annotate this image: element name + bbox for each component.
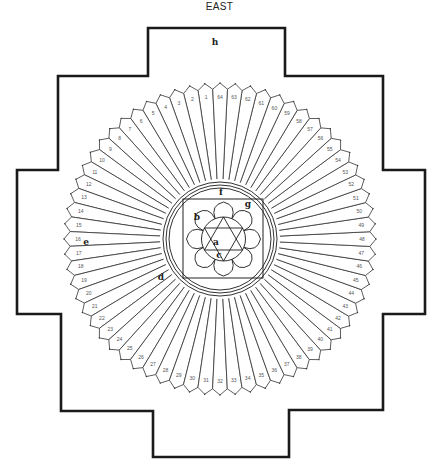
petal-number: 26 [138, 354, 144, 360]
petal-number: 19 [81, 277, 87, 283]
petal-number: 18 [78, 263, 84, 269]
petal-number: 33 [231, 377, 237, 383]
petal-tip-dot [160, 94, 161, 95]
petal-number: 16 [75, 236, 81, 242]
petal-number: 17 [76, 250, 82, 256]
petal-number: 54 [335, 157, 341, 163]
petal-tip-dot [75, 179, 76, 180]
petal-number: 14 [78, 208, 84, 214]
petal-number: 3 [177, 100, 180, 106]
petal-tip-dot [189, 391, 190, 392]
petal-number: 28 [163, 367, 169, 373]
petal-number: 2 [191, 96, 194, 102]
label-g: g [245, 199, 252, 209]
petal-number: 32 [217, 378, 223, 384]
petal-number: 42 [335, 315, 341, 321]
petal-tip-dot [219, 394, 220, 395]
label-c: c [216, 250, 222, 260]
petal-number: 20 [86, 290, 92, 296]
direction-label-east: EAST [0, 1, 439, 12]
petal-number: 59 [284, 110, 290, 116]
petal-tip-dot [375, 254, 376, 255]
petal-tip-dot [306, 368, 307, 369]
petal-tip-dot [363, 179, 364, 180]
petal-number: 37 [284, 361, 290, 367]
petal-number: 55 [327, 146, 333, 152]
petal-number: 25 [127, 345, 133, 351]
petal-number: 38 [296, 354, 302, 360]
label-d: d [158, 272, 165, 282]
petal-tip-dot [293, 101, 294, 102]
petal-number: 29 [176, 372, 182, 378]
petal-number: 21 [92, 303, 98, 309]
petal-number: 23 [107, 326, 113, 332]
petal-tip-dot [318, 359, 319, 360]
petal-tip-dot [375, 238, 376, 239]
petal-tip-dot [372, 208, 373, 209]
petal-number: 58 [296, 118, 302, 124]
petal-number: 62 [245, 96, 251, 102]
petal-tip-dot [219, 82, 220, 83]
label-b: b [194, 212, 200, 222]
petal-number: 1 [205, 94, 208, 100]
petal-tip-dot [174, 89, 175, 90]
petal-tip-dot [133, 109, 134, 110]
petal-number: 64 [217, 94, 223, 100]
petal-number: 24 [117, 336, 123, 342]
petal-number: 11 [92, 169, 97, 175]
petal-tip-dot [90, 152, 91, 153]
petal-number: 50 [357, 208, 363, 214]
petal-number: 63 [231, 94, 237, 100]
petal-tip-dot [146, 101, 147, 102]
petal-tip-dot [372, 269, 373, 270]
petal-number: 46 [356, 263, 362, 269]
petal-number: 45 [353, 277, 359, 283]
sri-yantra-style-mandala-diagram: EAST 12345678910111213141516171819202122… [0, 0, 439, 474]
petal-tip-dot [293, 376, 294, 377]
petal-tip-dot [82, 165, 83, 166]
petal-number: 12 [86, 181, 92, 187]
petal-tip-dot [99, 337, 100, 338]
petal-number: 5 [152, 110, 155, 116]
petal-number: 30 [189, 375, 195, 381]
petal-tip-dot [70, 284, 71, 285]
petal-number: 61 [258, 100, 264, 106]
mandala-svg: 1234567891011121314151617181920212223242… [0, 0, 439, 474]
petal-number: 31 [203, 377, 209, 383]
petal-tip-dot [204, 394, 205, 395]
petal-tip-dot [160, 382, 161, 383]
petal-number: 4 [164, 104, 167, 110]
petal-tip-dot [265, 89, 266, 90]
petal-tip-dot [120, 359, 121, 360]
petal-tip-dot [146, 376, 147, 377]
petal-number: 6 [140, 118, 143, 124]
petal-number: 47 [359, 250, 365, 256]
petal-tip-dot [64, 223, 65, 224]
petal-tip-dot [330, 128, 331, 129]
petal-tip-dot [340, 139, 341, 140]
petal-tip-dot [318, 118, 319, 119]
petal-number: 13 [81, 194, 87, 200]
petal-tip-dot [90, 325, 91, 326]
petal-tip-dot [375, 223, 376, 224]
petal-number: 60 [272, 105, 278, 111]
petal-number: 40 [318, 336, 324, 342]
petal-number: 53 [342, 169, 348, 175]
petal-tip-dot [63, 238, 64, 239]
petal-number: 51 [353, 195, 359, 201]
petal-tip-dot [357, 165, 358, 166]
petal-tip-dot [109, 349, 110, 350]
petal-number: 39 [307, 346, 313, 352]
petal-number: 10 [99, 157, 105, 163]
petal-number: 8 [118, 135, 121, 141]
petal-tip-dot [66, 269, 67, 270]
petal-tip-dot [250, 391, 251, 392]
petal-number: 34 [245, 375, 251, 381]
petal-number: 36 [272, 367, 278, 373]
petal-tip-dot [70, 193, 71, 194]
petal-number: 43 [342, 303, 348, 309]
petal-number: 56 [318, 135, 324, 141]
petal-tip-dot [349, 152, 350, 153]
petal-tip-dot [99, 139, 100, 140]
petal-tip-dot [279, 94, 280, 95]
